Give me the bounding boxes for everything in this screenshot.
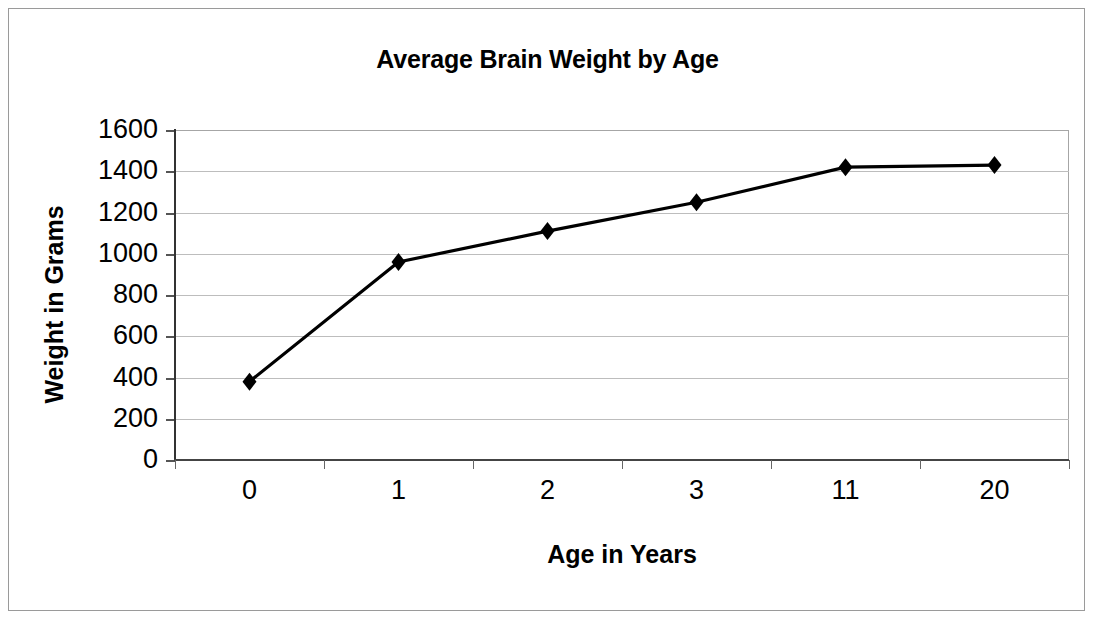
x-axis-tick-label: 0: [175, 477, 324, 504]
x-axis-tick-label: 2: [473, 477, 622, 504]
data-point-marker: [540, 222, 554, 240]
y-axis-tick-label: 600: [48, 322, 158, 349]
data-point-marker: [838, 158, 852, 176]
series-markers: [242, 156, 1001, 391]
x-axis-tick-mark: [175, 460, 176, 469]
x-axis-tick-label: 1: [324, 477, 473, 504]
data-series-line: [175, 130, 1069, 460]
y-axis-tick-label: 800: [48, 281, 158, 308]
y-axis-tick-label: 1200: [48, 199, 158, 226]
chart-title: Average Brain Weight by Age: [0, 45, 1095, 74]
x-axis-tick-label: 20: [920, 477, 1069, 504]
y-axis-tick-labels: 16001400120010008006004002000: [48, 0, 158, 620]
x-axis-tick-mark: [324, 460, 325, 469]
x-axis-tick-mark: [622, 460, 623, 469]
y-axis-tick-label: 400: [48, 364, 158, 391]
data-point-marker: [242, 373, 256, 391]
y-axis-tick-label: 1600: [48, 116, 158, 143]
y-axis-tick-label: 200: [48, 405, 158, 432]
y-axis-tick-label: 1400: [48, 157, 158, 184]
y-axis-tick-label: 1000: [48, 240, 158, 267]
x-axis-tick-mark: [473, 460, 474, 469]
x-axis-tick-mark: [771, 460, 772, 469]
y-axis-tick-label: 0: [48, 446, 158, 473]
x-axis-title: Age in Years: [175, 540, 1069, 569]
x-axis-tick-mark: [1069, 460, 1070, 469]
data-point-marker: [391, 253, 405, 271]
data-point-marker: [987, 156, 1001, 174]
data-point-marker: [689, 193, 703, 211]
x-axis-tick-label: 3: [622, 477, 771, 504]
series-polyline: [250, 165, 995, 382]
x-axis-tick-mark: [920, 460, 921, 469]
x-axis-tick-label: 11: [771, 477, 920, 504]
line-chart: Average Brain Weight by Age Weight in Gr…: [0, 0, 1095, 620]
